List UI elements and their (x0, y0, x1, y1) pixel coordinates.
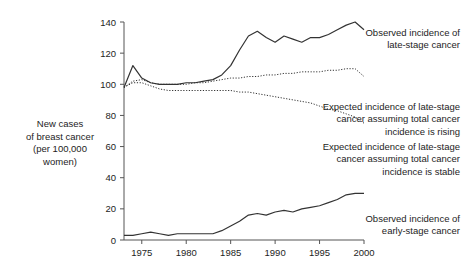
x-tick-label: 1980 (176, 247, 197, 258)
x-tick-label: 2000 (353, 247, 374, 258)
x-tick-label: 1995 (309, 247, 330, 258)
x-tick-label: 1990 (265, 247, 286, 258)
annotation-expected-stable: Expected incidence of late-stage cancer … (272, 141, 460, 178)
y-tick-label: 140 (100, 17, 116, 28)
y-tick-label: 40 (105, 172, 116, 183)
y-tick-label: 100 (100, 79, 116, 90)
annotation-observed-early-stage: Observed incidence of early-stage cancer (352, 213, 460, 238)
x-tick-label: 1985 (220, 247, 241, 258)
annotation-expected-rising: Expected incidence of late-stage cancer … (272, 101, 460, 138)
y-axis-ticks: 020406080100120140 (100, 17, 124, 246)
x-axis-ticks: 197519801985199019952000 (131, 240, 374, 258)
y-tick-label: 60 (105, 141, 116, 152)
chart-figure: New cases of breast cancer (per 100,000 … (0, 0, 464, 276)
y-tick-label: 80 (105, 110, 116, 121)
annotation-observed-late-stage: Observed incidence of late-stage cancer (354, 27, 460, 52)
series-line-3 (124, 193, 364, 235)
y-tick-label: 20 (105, 203, 116, 214)
x-tick-label: 1975 (131, 247, 152, 258)
y-tick-label: 120 (100, 48, 116, 59)
y-tick-label: 0 (111, 235, 116, 246)
